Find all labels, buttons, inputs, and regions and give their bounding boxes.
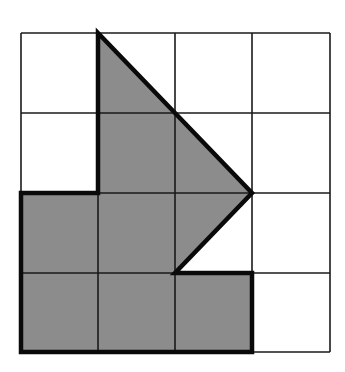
grid-diagram bbox=[0, 0, 345, 372]
